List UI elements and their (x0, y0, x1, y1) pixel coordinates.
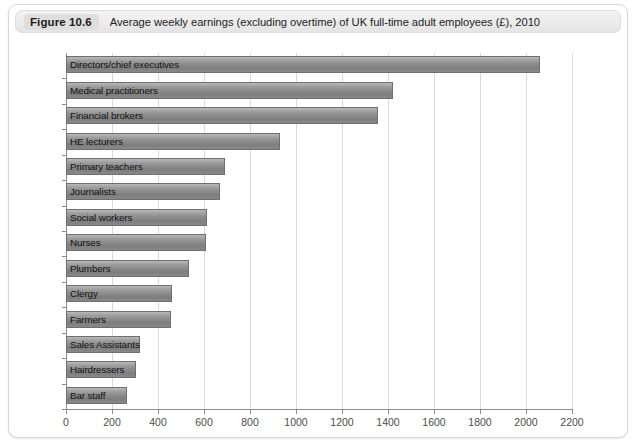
x-axis-tick-label: 0 (63, 416, 69, 428)
y-axis-tick (62, 333, 66, 334)
bar-row[interactable]: Nurses (66, 234, 572, 251)
bar-category-label: HE lecturers (70, 133, 123, 150)
bar-row[interactable]: Hairdressers (66, 361, 572, 378)
bar-row[interactable]: HE lecturers (66, 133, 572, 150)
x-axis-tick-label: 200 (103, 416, 121, 428)
x-axis-tick (204, 409, 205, 414)
x-axis-tick (112, 409, 113, 414)
y-axis-tick (62, 104, 66, 105)
x-axis-tick-label: 1000 (284, 416, 307, 428)
bar-category-label: Financial brokers (70, 107, 143, 124)
bar-row[interactable]: Journalists (66, 183, 572, 200)
bar-category-label: Journalists (70, 183, 116, 200)
chart-plot-wrapper: 0200400600800100012001400160018002000220… (9, 35, 627, 437)
bar-row[interactable]: Bar staff (66, 387, 572, 404)
x-axis-tick (572, 409, 573, 414)
y-axis-tick (62, 256, 66, 257)
y-axis-tick (62, 155, 66, 156)
x-axis-tick (388, 409, 389, 414)
bar-row[interactable]: Medical practitioners (66, 82, 572, 99)
bar-category-label: Social workers (70, 209, 132, 226)
figure-caption-bar: Figure 10.6 Average weekly earnings (exc… (15, 10, 621, 33)
bar-row[interactable]: Financial brokers (66, 107, 572, 124)
x-axis-tick (480, 409, 481, 414)
x-axis-tick-label: 2000 (514, 416, 537, 428)
x-axis-tick-label: 400 (149, 416, 167, 428)
x-axis-tick (296, 409, 297, 414)
bar-row[interactable]: Plumbers (66, 260, 572, 277)
figure-caption-text: Average weekly earnings (excluding overt… (110, 16, 540, 28)
x-axis-line (66, 409, 573, 410)
y-axis-tick (62, 129, 66, 130)
y-axis-tick (62, 78, 66, 79)
x-axis-tick (434, 409, 435, 414)
bar-row[interactable]: Sales Assistants (66, 336, 572, 353)
x-axis-tick-label: 1200 (330, 416, 353, 428)
x-axis-tick-label: 600 (195, 416, 213, 428)
x-axis-tick (526, 409, 527, 414)
x-axis-tick (342, 409, 343, 414)
y-axis-tick (62, 384, 66, 385)
y-axis-tick (62, 206, 66, 207)
y-axis-tick (62, 282, 66, 283)
x-axis-tick (250, 409, 251, 414)
figure-number-badge: Figure 10.6 (24, 14, 99, 30)
bar-category-label: Plumbers (70, 260, 111, 277)
y-axis-tick (62, 307, 66, 308)
bar-category-label: Primary teachers (70, 158, 142, 175)
x-axis-tick-label: 800 (241, 416, 259, 428)
x-axis-tick-label: 2200 (560, 416, 583, 428)
y-axis-tick (62, 358, 66, 359)
bar-category-label: Clergy (70, 285, 98, 302)
bar-row[interactable]: Social workers (66, 209, 572, 226)
bar-row[interactable]: Clergy (66, 285, 572, 302)
y-axis-tick (62, 180, 66, 181)
x-axis-tick-label: 1400 (376, 416, 399, 428)
x-axis-tick (158, 409, 159, 414)
bar-category-label: Sales Assistants (70, 336, 140, 353)
bar-category-label: Directors/chief executives (70, 56, 179, 73)
figure-card: Figure 10.6 Average weekly earnings (exc… (8, 4, 628, 438)
bar-row[interactable]: Primary teachers (66, 158, 572, 175)
x-axis-tick-label: 1800 (468, 416, 491, 428)
x-axis-tick (66, 409, 67, 414)
bar-category-label: Medical practitioners (70, 82, 158, 99)
y-axis-tick (62, 231, 66, 232)
bar-row[interactable]: Farmers (66, 311, 572, 328)
x-axis-tick-label: 1600 (422, 416, 445, 428)
bar-row[interactable]: Directors/chief executives (66, 56, 572, 73)
gridline (572, 53, 573, 409)
bar-category-label: Farmers (70, 311, 106, 328)
bar-category-label: Bar staff (70, 387, 105, 404)
y-axis-tick (62, 409, 66, 410)
bar-category-label: Nurses (70, 234, 100, 251)
bar-category-label: Hairdressers (70, 361, 124, 378)
